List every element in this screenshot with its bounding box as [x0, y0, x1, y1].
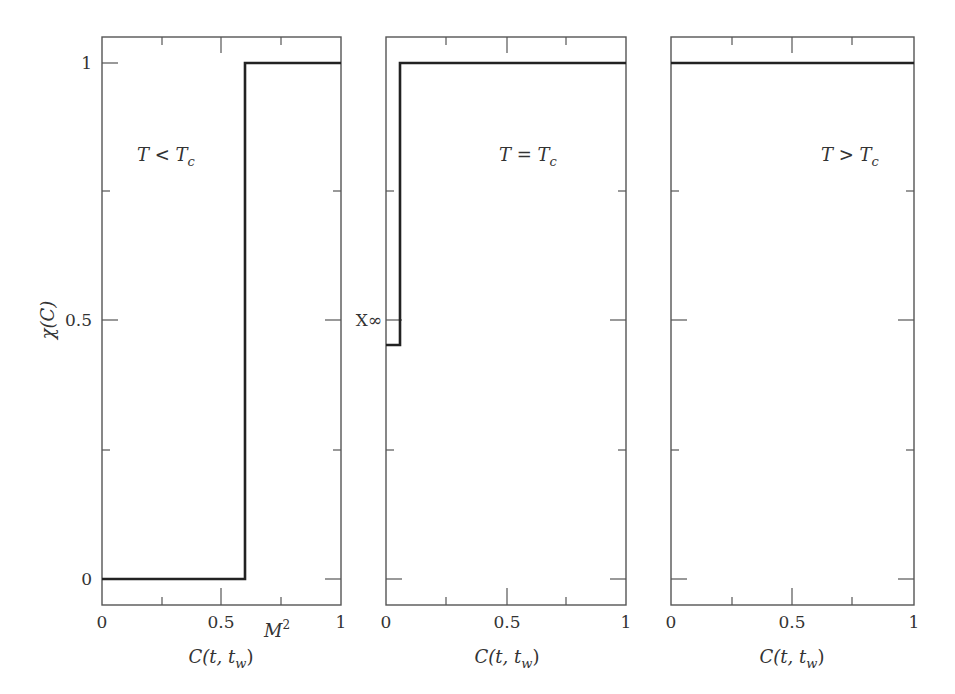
panel-right-frame [671, 37, 914, 605]
panel-left: 1 0.5 0 0 0.5 1 M2 T < Tc χ(C) C(t, tw) [37, 37, 346, 671]
x-axis-label-left: C(t, tw) [189, 646, 254, 671]
chi-curve-left [102, 63, 341, 579]
panel-left-frame [102, 37, 341, 605]
panel-right: 0 0.5 1 T > Tc C(t, tw) [666, 37, 920, 671]
panel-middle: X∞ 0 0.5 1 T = Tc C(t, tw) [356, 37, 632, 671]
panel-middle-frame [386, 37, 626, 605]
y-axis-label: χ(C) [37, 301, 58, 342]
xtick-0: 0 [666, 612, 677, 632]
ytick-0: 0 [81, 569, 92, 589]
m-squared-label: M2 [263, 618, 290, 641]
ytick-0.5: 0.5 [65, 310, 92, 330]
xtick-0: 0 [97, 612, 108, 632]
xtick-0.5: 0.5 [207, 612, 234, 632]
chi-infinity-label: X∞ [356, 310, 382, 330]
annotation-t-less-tc: T < Tc [137, 144, 196, 169]
x-axis-label-middle: C(t, tw) [475, 646, 540, 671]
chart-figure: 1 0.5 0 0 0.5 1 M2 T < Tc χ(C) C(t, tw) … [0, 0, 955, 694]
ytick-1: 1 [81, 53, 92, 73]
xtick-1: 1 [909, 612, 920, 632]
annotation-t-equal-tc: T = Tc [499, 144, 558, 169]
xtick-1: 1 [621, 612, 632, 632]
annotation-t-greater-tc: T > Tc [821, 144, 880, 169]
chi-curve-middle [386, 63, 626, 345]
xtick-0.5: 0.5 [778, 612, 805, 632]
x-axis-label-right: C(t, tw) [760, 646, 825, 671]
xtick-0: 0 [381, 612, 392, 632]
xtick-1: 1 [336, 612, 347, 632]
xtick-0.5: 0.5 [493, 612, 520, 632]
